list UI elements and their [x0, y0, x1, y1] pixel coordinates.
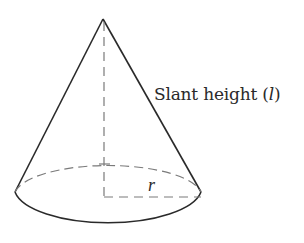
cone-left-side	[15, 19, 103, 192]
slant-suffix: )	[274, 84, 280, 104]
radius-label: r	[148, 175, 155, 196]
cone-diagram	[0, 0, 304, 243]
cone-slant-side	[103, 19, 201, 192]
base-ellipse-back	[15, 166, 201, 192]
slant-height-label: Slant height (l)	[154, 84, 280, 104]
slant-prefix: Slant height (	[154, 84, 269, 104]
